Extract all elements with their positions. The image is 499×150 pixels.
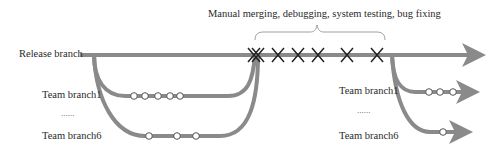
annotation-label: Manual merging, debugging, system testin…: [208, 9, 441, 20]
right-team-branch1-label: Team branch1: [339, 86, 399, 97]
release-branch-label: Release branch: [19, 49, 83, 60]
branch-diagram: [0, 0, 499, 150]
right-ellipsis: ......: [357, 106, 371, 115]
left-ellipsis: ......: [61, 109, 75, 118]
right-branch1-commits: [426, 89, 457, 96]
left-team-branch6-label: Team branch6: [42, 131, 102, 142]
diagram-canvas: Release branch Manual merging, debugging…: [0, 0, 499, 150]
right-branch6-commits: [440, 129, 447, 136]
annotation-brace: [255, 25, 385, 40]
right-team-branch6-label: Team branch6: [339, 131, 399, 142]
left-team-branch1-line: [94, 55, 255, 96]
left-team-branch1-label: Team branch1: [42, 90, 102, 101]
right-team-branch1-line: [392, 55, 468, 92]
